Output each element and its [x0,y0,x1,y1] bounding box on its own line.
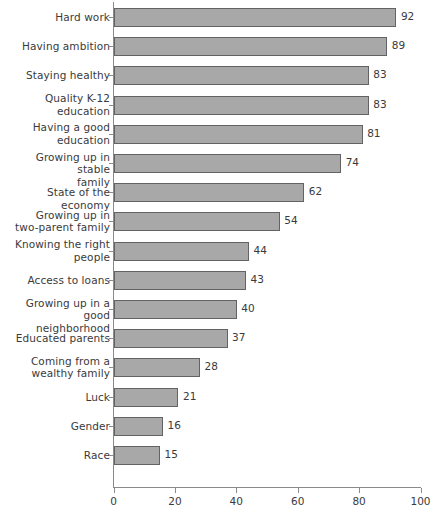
bar-row: Growing up in stable family74 [0,149,440,178]
bar-row: Staying healthy83 [0,61,440,90]
bar-value-label: 37 [232,331,245,343]
bar-row: Having ambition89 [0,32,440,61]
x-axis-tick [359,488,360,493]
x-axis-tick-label: 60 [278,495,318,508]
bar-row: Hard work92 [0,3,440,32]
bar-value-label: 21 [183,390,196,402]
bar-row: Having a good education81 [0,120,440,149]
bar [114,66,369,85]
bar-row: Race15 [0,441,440,470]
bar-row: Knowing the right people44 [0,237,440,266]
x-axis-tick [175,488,176,493]
x-axis-tick [298,488,299,493]
y-axis-tick [109,367,113,368]
y-axis-tick [109,75,113,76]
y-axis-tick [109,251,113,252]
y-axis-tick [109,338,113,339]
y-axis-tick [109,455,113,456]
y-axis-tick [109,17,113,18]
bar-chart: Hard work92Having ambition89Staying heal… [0,0,440,520]
category-label: Knowing the right people [0,238,110,263]
bar-value-label: 81 [367,127,380,139]
x-axis-line [113,487,421,488]
category-label: Growing up in two-parent family [0,209,110,234]
bar [114,446,160,465]
bar-value-label: 54 [284,214,297,226]
category-label: Race [0,449,110,462]
bar [114,417,163,436]
y-axis-tick [109,309,113,310]
bar-value-label: 43 [251,273,264,285]
bar [114,8,396,27]
category-label: Access to loans [0,274,110,287]
plot-area: Hard work92Having ambition89Staying heal… [0,0,440,520]
bar-row: Growing up in two-parent family54 [0,207,440,236]
bar-value-label: 74 [346,156,359,168]
y-axis-tick [109,134,113,135]
bar-value-label: 44 [254,244,267,256]
y-axis-tick [109,397,113,398]
bar-row: Access to loans43 [0,266,440,295]
bar-row: Luck21 [0,383,440,412]
bar-row: Educated parents37 [0,324,440,353]
bar [114,271,246,290]
category-label: Staying healthy [0,69,110,82]
y-axis-tick [109,280,113,281]
bar [114,300,237,319]
bar [114,96,369,115]
bar-value-label: 62 [309,185,322,197]
bar-value-label: 15 [165,448,178,460]
x-axis-tick-label: 20 [155,495,195,508]
y-axis-tick [109,163,113,164]
category-label: Coming from a wealthy family [0,355,110,380]
bar-value-label: 16 [168,419,181,431]
bar-row: State of the economy62 [0,178,440,207]
bar-value-label: 28 [204,360,217,372]
bar-value-label: 83 [373,98,386,110]
bar-value-label: 89 [392,39,405,51]
bar [114,329,228,348]
bar-value-label: 40 [241,302,254,314]
category-label: Having a good education [0,121,110,146]
bar [114,37,387,56]
x-axis-tick-label: 0 [94,495,134,508]
x-axis-tick [114,488,115,493]
x-axis-tick-label: 80 [339,495,379,508]
bar [114,154,341,173]
bar [114,183,304,202]
category-label: Gender [0,420,110,433]
y-axis-tick [109,221,113,222]
category-label: Having ambition [0,40,110,53]
x-axis-tick [421,488,422,493]
x-axis-tick [236,488,237,493]
bar [114,242,249,261]
bar-value-label: 92 [401,10,414,22]
bar [114,125,363,144]
category-label: Luck [0,391,110,404]
bar-row: Coming from a wealthy family28 [0,353,440,382]
bar-row: Gender16 [0,412,440,441]
x-axis-tick-label: 100 [401,495,440,508]
y-axis-tick [109,426,113,427]
y-axis-tick [109,105,113,106]
category-label: Educated parents [0,332,110,345]
y-axis-tick [109,192,113,193]
bar [114,212,280,231]
bar-value-label: 83 [373,68,386,80]
bar [114,388,178,407]
y-axis-tick [109,46,113,47]
x-axis-tick-label: 40 [216,495,256,508]
bar-row: Growing up in a good neighborhood40 [0,295,440,324]
bar [114,358,200,377]
category-label: Quality K-12 education [0,92,110,117]
bar-row: Quality K-12 education83 [0,91,440,120]
category-label: Hard work [0,11,110,24]
